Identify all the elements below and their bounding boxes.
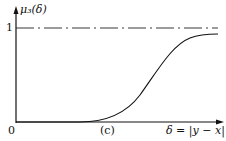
membership-curve [16, 34, 218, 122]
membership-plot [0, 0, 226, 141]
y-axis-label: μ₃(δ) [20, 4, 47, 15]
x-axis-label: δ = |y − x| [166, 125, 225, 136]
figure-caption: (c) [100, 125, 115, 136]
y-tick-one: 1 [6, 22, 13, 33]
y-axis-arrow-icon [14, 6, 19, 14]
origin-label: 0 [8, 125, 15, 136]
